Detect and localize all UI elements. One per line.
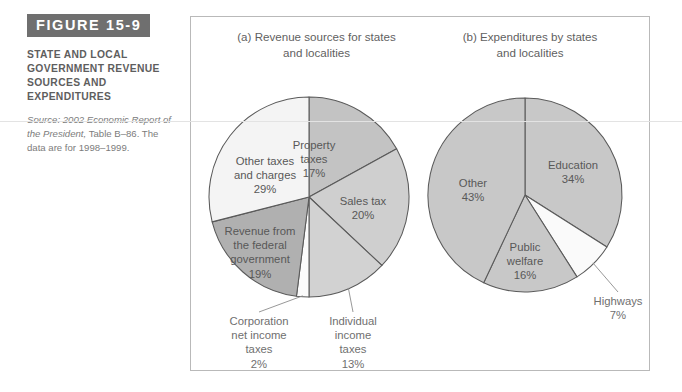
label-leader-line <box>259 296 303 312</box>
pie-slice-label: Individualincometaxes13% <box>329 315 377 370</box>
figure-title: STATE AND LOCAL GOVERNMENT REVENUE SOURC… <box>27 48 179 105</box>
label-leader-line <box>348 288 353 312</box>
pie-a-svg: Propertytaxes17%Sales tax20%Individualin… <box>196 87 424 317</box>
figure-number-badge: FIGURE 15-9 <box>27 14 150 37</box>
pie-chart-revenue-sources: Propertytaxes17%Sales tax20%Individualin… <box>196 87 424 317</box>
figure-frame: (a) Revenue sources for states and local… <box>190 16 650 371</box>
pie-b-svg: Education34%Highways7%Publicwelfare16%Ot… <box>423 95 641 320</box>
pie-chart-expenditures: Education34%Highways7%Publicwelfare16%Ot… <box>423 95 641 320</box>
label-leader-line <box>593 263 618 292</box>
pie-slice-label: Highways7% <box>594 295 643 321</box>
pie-slice-label: Corporationnet incometaxes2% <box>229 315 288 370</box>
panel-a-title: (a) Revenue sources for states and local… <box>209 29 424 60</box>
figure-caption-column: FIGURE 15-9 STATE AND LOCAL GOVERNMENT R… <box>27 14 177 154</box>
figure-source-note: Source: 2002 Economic Report of the Pres… <box>27 113 179 154</box>
panel-b-title: (b) Expenditures by states and localitie… <box>424 29 636 60</box>
